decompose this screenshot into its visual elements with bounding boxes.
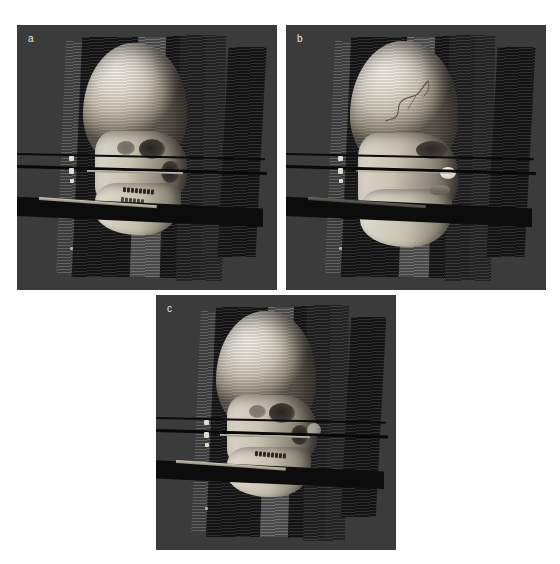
superficial-vessel-tracing — [378, 77, 444, 125]
temporal-fossa — [117, 141, 135, 155]
fiducial-marker — [204, 420, 209, 425]
fiducial-marker — [338, 156, 343, 161]
tooth — [283, 453, 286, 458]
fiducial-marker — [204, 432, 209, 438]
fiducial-marker — [339, 179, 343, 183]
panel-a-label: a — [28, 34, 34, 44]
fiducial-marker — [205, 443, 209, 447]
tooth — [127, 187, 130, 192]
tooth — [267, 452, 270, 457]
tooth — [143, 189, 146, 194]
tooth — [131, 188, 134, 193]
tooth — [255, 451, 258, 456]
fiducial-marker — [70, 247, 73, 250]
fiducial-marker — [205, 507, 208, 510]
tooth — [123, 187, 126, 192]
tooth — [135, 188, 138, 193]
volume-scene-b — [286, 25, 546, 290]
fiducial-marker — [339, 247, 342, 250]
tooth — [259, 451, 262, 456]
panel-a-bone-rendering[interactable]: a — [17, 25, 277, 290]
figure-canvas: a — [0, 0, 560, 564]
fiducial-marker — [338, 168, 343, 174]
panel-b-soft-tissue-rendering[interactable]: b — [286, 25, 546, 290]
volume-scene-a — [17, 25, 277, 290]
tooth — [275, 453, 278, 458]
lips — [430, 185, 450, 195]
panel-c-fused-rendering[interactable]: c — [156, 295, 396, 550]
tooth — [151, 189, 154, 194]
tooth — [263, 452, 266, 457]
panel-c-label: c — [167, 304, 172, 314]
fiducial-marker — [70, 179, 74, 183]
tooth — [139, 188, 142, 193]
fiducial-marker — [69, 156, 74, 161]
panel-b-label: b — [297, 34, 303, 44]
tooth — [279, 453, 282, 458]
volume-scene-c — [156, 295, 396, 550]
temporal-fossa — [249, 405, 266, 418]
fiducial-marker — [69, 168, 74, 174]
tooth — [271, 452, 274, 457]
tooth — [147, 189, 150, 194]
